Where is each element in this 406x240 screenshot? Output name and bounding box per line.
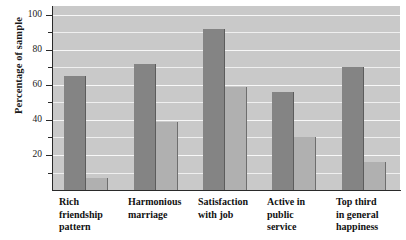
y-tick-minor [48,173,52,174]
bar [203,29,225,190]
y-axis-title: Percentage of sample [13,0,24,146]
category-label: Active in public service [267,196,305,234]
x-axis-line [52,190,401,191]
bar [86,178,108,190]
bar [342,67,364,190]
y-tick-minor [48,137,52,138]
category-label: Top third in general happiness [336,196,379,234]
y-tick-label: 80 [33,45,43,55]
bar [364,162,386,190]
bar [64,76,86,190]
y-tick-minor [48,102,52,103]
y-tick-minor [48,32,52,33]
bar [294,137,316,190]
gridline [53,32,400,33]
y-tick-label: 100 [28,10,42,20]
category-label: Harmonious marriage [128,196,181,221]
y-tick-label: 60 [33,80,43,90]
bar [225,87,247,190]
bar-chart: Percentage of sample 20406080100 Rich fr… [0,0,406,240]
y-tick-label: 40 [33,115,43,125]
y-tick-major [46,85,52,86]
gridline [53,50,400,51]
bar [156,122,178,190]
bar [134,64,156,190]
gridline [53,15,400,16]
y-tick-major [46,50,52,51]
plot-area [53,6,400,190]
category-label: Rich friendship pattern [59,196,103,234]
category-label: Satisfaction with job [198,196,248,221]
y-axis-line [52,6,53,190]
y-tick-minor [48,67,52,68]
bar [272,92,294,190]
y-tick-major [46,15,52,16]
y-tick-major [46,120,52,121]
y-tick-major [46,155,52,156]
y-tick-label: 20 [33,150,43,160]
